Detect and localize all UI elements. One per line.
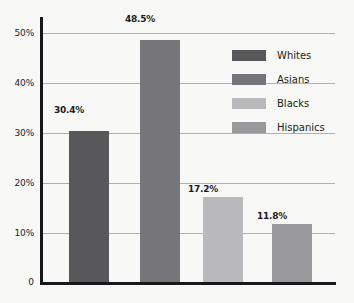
legend: Whites Asians Blacks Hispanics: [232, 46, 325, 142]
legend-swatch-whites: [232, 50, 266, 61]
bar-hispanics: [272, 224, 312, 283]
bar-blacks: [203, 197, 243, 283]
y-axis-line: [40, 17, 43, 284]
bar-asians: [140, 40, 180, 283]
bar-chart: 50% 40% 30% 20% 10% 0 30.4% 48.5% 17.2% …: [0, 0, 354, 303]
legend-label-asians: Asians: [277, 74, 310, 85]
bar-whites: [69, 131, 109, 283]
legend-item-blacks: Blacks: [232, 94, 325, 113]
bar-label-asians: 48.5%: [120, 14, 160, 24]
gridline-50: [42, 33, 335, 34]
legend-swatch-blacks: [232, 98, 266, 109]
legend-item-asians: Asians: [232, 70, 325, 89]
legend-swatch-hispanics: [232, 122, 266, 133]
y-tick-50: 50%: [4, 28, 34, 38]
bar-label-hispanics: 11.8%: [252, 211, 292, 221]
legend-label-whites: Whites: [277, 50, 311, 61]
legend-item-hispanics: Hispanics: [232, 118, 325, 137]
y-tick-20: 20%: [4, 178, 34, 188]
x-axis-line: [40, 282, 336, 285]
y-tick-40: 40%: [4, 78, 34, 88]
legend-label-hispanics: Hispanics: [277, 122, 325, 133]
legend-label-blacks: Blacks: [277, 98, 309, 109]
legend-item-whites: Whites: [232, 46, 325, 65]
legend-swatch-asians: [232, 74, 266, 85]
bar-label-blacks: 17.2%: [183, 184, 223, 194]
y-tick-0: 0: [4, 277, 34, 287]
y-tick-10: 10%: [4, 228, 34, 238]
y-tick-30: 30%: [4, 128, 34, 138]
bar-label-whites: 30.4%: [49, 105, 89, 115]
